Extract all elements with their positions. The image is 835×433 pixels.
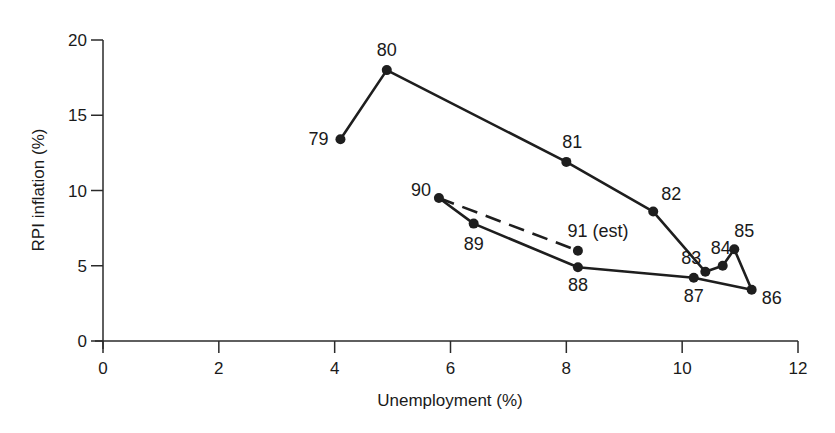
point-label: 87 (684, 286, 704, 306)
point-label: 86 (762, 288, 782, 308)
point-label: 91 (est) (567, 221, 628, 241)
point-label: 85 (734, 221, 754, 241)
data-point (561, 157, 571, 167)
x-tick-label: 8 (562, 359, 571, 378)
y-tick-label: 5 (78, 257, 87, 276)
y-tick-label: 20 (68, 31, 87, 50)
point-label: 89 (464, 234, 484, 254)
axes: 05101520024681012 (68, 31, 807, 378)
estimate-line (439, 198, 578, 251)
point-label: 84 (711, 238, 731, 258)
data-point (335, 134, 345, 144)
data-point (382, 65, 392, 75)
data-point (747, 285, 757, 295)
x-tick-label: 2 (214, 359, 223, 378)
x-axis-label: Unemployment (%) (377, 391, 523, 410)
x-tick-label: 6 (446, 359, 455, 378)
point-label: 88 (568, 275, 588, 295)
data-point (718, 261, 728, 271)
point-label: 90 (411, 180, 431, 200)
data-point (573, 246, 583, 256)
y-tick-label: 0 (78, 332, 87, 351)
phillips-curve-chart: 05101520024681012 7980818283848586878889… (0, 0, 835, 433)
data-point (729, 244, 739, 254)
data-point (573, 262, 583, 272)
y-tick-label: 15 (68, 106, 87, 125)
data-point (648, 207, 658, 217)
data-point (700, 267, 710, 277)
data-point (689, 273, 699, 283)
y-tick-label: 10 (68, 182, 87, 201)
x-tick-label: 0 (98, 359, 107, 378)
x-tick-label: 12 (789, 359, 808, 378)
x-tick-label: 4 (330, 359, 339, 378)
data-point (469, 219, 479, 229)
plot-area: 79808182838485868788899091 (est) (308, 40, 781, 308)
y-axis-label: RPI inflation (%) (29, 129, 48, 252)
point-label: 82 (661, 184, 681, 204)
point-label: 81 (562, 132, 582, 152)
data-point (434, 193, 444, 203)
point-label: 80 (377, 40, 397, 60)
point-label: 83 (681, 248, 701, 268)
point-label: 79 (308, 129, 328, 149)
x-tick-label: 10 (673, 359, 692, 378)
